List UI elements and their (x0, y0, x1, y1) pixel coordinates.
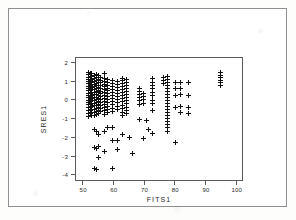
y-tick-label-2: 0 (64, 97, 68, 103)
figure-outer-border: SRES1 FITS1 210-1-2-3-4 5060708090100 (8, 8, 287, 207)
scatter-point (115, 147, 120, 152)
x-axis-label: FITS1 (147, 196, 172, 203)
scatter-point (186, 80, 191, 85)
scatter-point (110, 125, 115, 130)
plot-area: 210-1-2-3-4 5060708090100 (75, 57, 243, 181)
x-tick-5: 100 (236, 180, 237, 185)
y-tick-label-6: -4 (62, 172, 68, 178)
scatter-point (96, 155, 101, 160)
y-tick-label-1: 1 (64, 79, 68, 85)
x-tick-label-2: 70 (141, 187, 148, 193)
scatter-point (94, 167, 99, 172)
scatter-point (178, 104, 183, 109)
y-tick-label-3: -1 (62, 116, 68, 122)
scatter-point (137, 117, 142, 122)
scatter-point (186, 93, 191, 98)
scatter-point (218, 83, 223, 88)
x-tick-label-3: 80 (172, 187, 179, 193)
scatter-point (102, 149, 107, 154)
scatter-point (178, 80, 183, 85)
scatter-point (102, 71, 107, 76)
scatter-point (105, 125, 110, 130)
x-tick-4: 90 (205, 180, 206, 185)
scatter-point (150, 101, 155, 106)
y-tick-label-5: -3 (62, 154, 68, 160)
scatter-point (141, 136, 146, 141)
scatter-point (105, 110, 110, 115)
x-tick-2: 70 (144, 180, 145, 185)
x-tick-0: 50 (82, 180, 83, 185)
scatter-point (173, 140, 178, 145)
scatter-point (178, 86, 183, 91)
scatter-point (120, 132, 125, 137)
scatter-point (141, 101, 146, 106)
x-tick-label-5: 100 (232, 187, 243, 193)
scatter-point (178, 110, 183, 115)
scatter-point (130, 151, 135, 156)
scatter-point (144, 118, 149, 123)
x-tick-3: 80 (174, 180, 175, 185)
scatter-point (127, 135, 132, 140)
scatter-point (110, 166, 115, 171)
x-tick-label-0: 50 (80, 187, 87, 193)
scanned-figure-page: SRES1 FITS1 210-1-2-3-4 5060708090100 (0, 0, 296, 220)
scatter-point (186, 111, 191, 116)
scatter-point (115, 138, 120, 143)
x-tick-label-1: 60 (110, 187, 117, 193)
scatter-point (150, 108, 155, 113)
scatter-point (124, 111, 129, 116)
y-axis-label: SRES1 (40, 105, 47, 133)
scatter-point (96, 144, 101, 149)
y-tick-label-0: 2 (64, 60, 68, 66)
scatter-point (186, 105, 191, 110)
scatter-point (150, 131, 155, 136)
scatter-point (165, 129, 170, 134)
scatter-point (178, 92, 183, 97)
scatter-points-layer (76, 58, 242, 180)
x-tick-1: 60 (113, 180, 114, 185)
y-tick-label-4: -2 (62, 135, 68, 141)
scatter-point (96, 132, 101, 137)
x-tick-label-4: 90 (203, 187, 210, 193)
